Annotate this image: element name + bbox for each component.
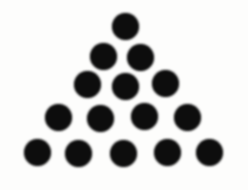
dot	[152, 70, 179, 97]
dot	[127, 44, 154, 71]
dot	[24, 139, 51, 166]
dot	[90, 43, 117, 70]
dot	[112, 73, 139, 100]
dot	[174, 104, 201, 131]
dot	[87, 105, 114, 132]
dot	[131, 103, 158, 130]
dot	[74, 71, 101, 98]
dot	[65, 140, 92, 167]
dot	[196, 139, 223, 166]
dot	[110, 140, 137, 167]
dot	[154, 139, 181, 166]
dot	[112, 13, 139, 40]
dot	[45, 104, 72, 131]
triangular-dot-pattern-figure	[0, 0, 248, 190]
